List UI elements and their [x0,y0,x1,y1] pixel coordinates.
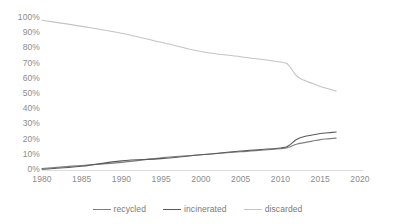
y-axis-tick: 100% [2,13,40,22]
y-axis-tick: 30% [2,119,40,128]
legend-line-icon [93,209,111,210]
line-chart: 100%90%80%70%60%50%40%30%20%10%0% 198019… [0,0,395,224]
y-axis-tick: 40% [2,104,40,113]
legend-item-discarded[interactable]: discarded [244,204,303,214]
x-axis-tick: 1985 [62,174,102,184]
x-axis-tick: 2020 [340,174,380,184]
x-axis-tick: 1980 [22,174,62,184]
legend-label: incinerated [184,204,227,214]
chart-plot-area [0,0,395,224]
y-axis-tick: 20% [2,135,40,144]
legend-line-icon [163,209,181,210]
legend-item-incinerated[interactable]: incinerated [163,204,227,214]
y-axis-tick: 60% [2,74,40,83]
series-line-discarded [42,20,336,91]
y-axis-tick: 0% [2,165,40,174]
series-paths [42,20,363,170]
y-axis-tick: 10% [2,150,40,159]
x-axis-tick: 1990 [102,174,142,184]
y-axis-tick: 70% [2,59,40,68]
series-line-incinerated [42,132,336,169]
chart-legend: recycledincinerateddiscarded [0,201,395,217]
x-axis-tick: 2005 [221,174,261,184]
legend-item-recycled[interactable]: recycled [93,204,146,214]
legend-line-icon [244,209,262,210]
x-axis-tick-labels: 198019851990199520002005201020152020 [0,174,395,188]
y-axis-tick-labels: 100%90%80%70%60%50%40%30%20%10%0% [0,0,40,224]
x-axis-tick: 2000 [181,174,221,184]
y-axis-tick: 80% [2,43,40,52]
legend-label: discarded [265,204,303,214]
x-axis-tick: 1995 [141,174,181,184]
x-axis-tick: 2015 [300,174,340,184]
y-axis-tick: 50% [2,89,40,98]
x-axis-tick: 2010 [261,174,301,184]
y-axis-tick: 90% [2,28,40,37]
legend-label: recycled [114,204,146,214]
